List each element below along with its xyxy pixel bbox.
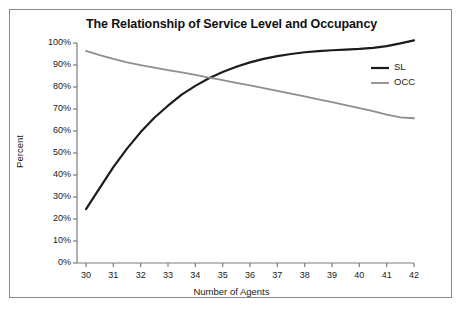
x-tick-label: 31: [100, 270, 126, 280]
x-tick-label: 34: [182, 270, 208, 280]
x-tick-label: 35: [210, 270, 236, 280]
x-tick-label: 36: [237, 270, 263, 280]
plot-area: [10, 10, 453, 299]
y-axis-title: Percent: [14, 122, 25, 182]
y-tick-label: 70%: [37, 103, 71, 113]
x-tick-marks: [86, 263, 414, 267]
x-tick-label: 41: [374, 270, 400, 280]
x-tick-label: 39: [319, 270, 345, 280]
legend-label-sl: SL: [394, 61, 406, 72]
x-tick-label: 33: [155, 270, 181, 280]
y-tick-label: 0%: [37, 257, 71, 267]
chart-frame: The Relationship of Service Level and Oc…: [9, 9, 452, 298]
series-line-sl: [86, 40, 414, 209]
x-tick-label: 37: [264, 270, 290, 280]
y-tick-label: 100%: [37, 37, 71, 47]
y-tick-label: 60%: [37, 125, 71, 135]
x-tick-label: 38: [292, 270, 318, 280]
axes-group: [77, 43, 414, 263]
y-tick-label: 20%: [37, 213, 71, 223]
y-tick-label: 50%: [37, 147, 71, 157]
x-tick-label: 42: [401, 270, 427, 280]
x-tick-label: 32: [128, 270, 154, 280]
legend-label-occ: OCC: [394, 76, 415, 87]
legend-swatches: [371, 68, 389, 83]
data-series-group: [86, 40, 414, 209]
y-tick-label: 80%: [37, 81, 71, 91]
x-axis-title: Number of Agents: [10, 286, 453, 297]
y-tick-label: 90%: [37, 59, 71, 69]
y-tick-label: 10%: [37, 235, 71, 245]
y-tick-label: 30%: [37, 191, 71, 201]
x-tick-label: 30: [73, 270, 99, 280]
series-line-occ: [86, 51, 414, 118]
y-tick-label: 40%: [37, 169, 71, 179]
x-tick-label: 40: [346, 270, 372, 280]
